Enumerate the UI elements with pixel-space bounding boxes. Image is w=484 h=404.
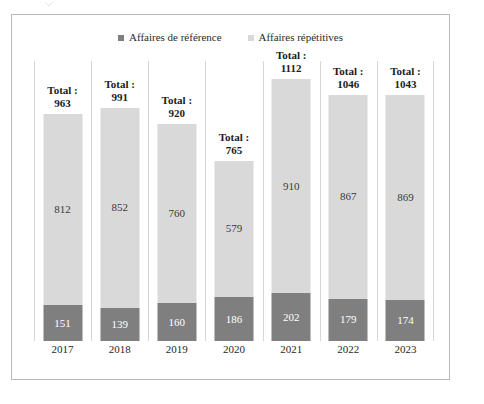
bar-total-label: Total :920 bbox=[162, 94, 192, 120]
stacked-bar[interactable]: 812151 bbox=[43, 114, 82, 341]
bar-segment-value: 760 bbox=[169, 208, 186, 219]
square-marker bbox=[248, 35, 254, 41]
bar-segment-value: 202 bbox=[283, 312, 300, 323]
bar-total-label: Total :991 bbox=[104, 78, 134, 104]
bar-total-prefix: Total : bbox=[276, 49, 306, 62]
bar-total-label: Total :1046 bbox=[333, 65, 363, 91]
x-tick-label: 2020 bbox=[223, 343, 245, 355]
stacked-bar[interactable]: 579186 bbox=[214, 161, 253, 341]
legend-item: Affaires répétitives bbox=[248, 32, 343, 43]
bar-total-prefix: Total : bbox=[162, 94, 192, 107]
bar-total-value: 1043 bbox=[390, 78, 420, 91]
column-separator bbox=[91, 61, 92, 341]
stacked-bar[interactable]: 869174 bbox=[386, 95, 425, 341]
bar-segment-reference[interactable]: 160 bbox=[157, 303, 196, 341]
bar-segment-reference[interactable]: 139 bbox=[100, 308, 139, 341]
category-column: 869174Total :1043 bbox=[377, 61, 434, 341]
bar-total-prefix: Total : bbox=[104, 78, 134, 91]
x-tick-label: 2017 bbox=[52, 343, 74, 355]
column-separator bbox=[205, 61, 206, 341]
bar-total-value: 1112 bbox=[276, 62, 306, 75]
bar-segment-repetitive[interactable]: 910 bbox=[272, 79, 311, 293]
bar-total-value: 991 bbox=[104, 91, 134, 104]
x-tick-label: 2019 bbox=[166, 343, 188, 355]
bar-segment-value: 186 bbox=[226, 314, 243, 325]
bar-segment-reference[interactable]: 151 bbox=[43, 305, 82, 341]
legend-item: Affaires de référence bbox=[118, 32, 222, 43]
bar-total-value: 963 bbox=[47, 97, 77, 110]
square-marker bbox=[118, 35, 124, 41]
bar-total-prefix: Total : bbox=[219, 131, 249, 144]
bar-total-label: Total :765 bbox=[219, 131, 249, 157]
column-separator bbox=[320, 61, 321, 341]
category-column: 760160Total :920 bbox=[148, 61, 205, 341]
column-separator bbox=[377, 61, 378, 341]
x-tick-label: 2021 bbox=[280, 343, 302, 355]
chart-frame: Affaires de référenceAffaires répétitive… bbox=[11, 14, 450, 380]
bar-total-value: 920 bbox=[162, 107, 192, 120]
bar-total-prefix: Total : bbox=[47, 84, 77, 97]
bar-segment-value: 160 bbox=[169, 317, 186, 328]
bar-total-prefix: Total : bbox=[333, 65, 363, 78]
bar-total-label: Total :1112 bbox=[276, 49, 306, 75]
bar-total-value: 1046 bbox=[333, 78, 363, 91]
bar-segment-repetitive[interactable]: 867 bbox=[329, 95, 368, 299]
bar-segment-reference[interactable]: 179 bbox=[329, 299, 368, 341]
stacked-bar[interactable]: 852139 bbox=[100, 108, 139, 341]
bar-segment-value: 179 bbox=[340, 314, 357, 325]
category-column: 910202Total :1112 bbox=[263, 61, 320, 341]
column-separator bbox=[263, 61, 264, 341]
legend-item-label: Affaires répétitives bbox=[259, 32, 343, 43]
column-separator bbox=[433, 61, 434, 341]
bar-segment-reference[interactable]: 174 bbox=[386, 300, 425, 341]
bar-total-prefix: Total : bbox=[390, 65, 420, 78]
x-axis-labels: 2017201820192020202120222023 bbox=[34, 343, 434, 363]
category-column: 852139Total :991 bbox=[91, 61, 148, 341]
bar-segment-value: 852 bbox=[111, 202, 128, 213]
bar-total-label: Total :1043 bbox=[390, 65, 420, 91]
bar-segment-repetitive[interactable]: 760 bbox=[157, 124, 196, 303]
column-separator bbox=[148, 61, 149, 341]
x-tick-label: 2018 bbox=[109, 343, 131, 355]
stacked-bar[interactable]: 910202 bbox=[272, 79, 311, 341]
bar-segment-value: 910 bbox=[283, 181, 300, 192]
chart-legend: Affaires de référenceAffaires répétitive… bbox=[12, 32, 449, 43]
bar-segment-value: 812 bbox=[54, 204, 71, 215]
category-column: 867179Total :1046 bbox=[320, 61, 377, 341]
column-separator bbox=[34, 61, 35, 341]
stacked-bar[interactable]: 867179 bbox=[329, 95, 368, 341]
bar-segment-value: 174 bbox=[397, 315, 414, 326]
legend-item-label: Affaires de référence bbox=[129, 32, 222, 43]
bar-segment-reference[interactable]: 202 bbox=[272, 293, 311, 341]
bar-segment-value: 139 bbox=[111, 319, 128, 330]
bar-segment-value: 869 bbox=[397, 192, 414, 203]
plot-area: 812151Total :963852139Total :991760160To… bbox=[34, 61, 434, 341]
bar-segment-repetitive[interactable]: 869 bbox=[386, 95, 425, 300]
bar-segment-repetitive[interactable]: 852 bbox=[100, 108, 139, 309]
category-column: 812151Total :963 bbox=[34, 61, 91, 341]
bar-segment-value: 151 bbox=[54, 318, 71, 329]
bar-segment-value: 579 bbox=[226, 223, 243, 234]
x-tick-label: 2022 bbox=[337, 343, 359, 355]
x-tick-label: 2023 bbox=[394, 343, 416, 355]
bar-total-label: Total :963 bbox=[47, 84, 77, 110]
bar-segment-value: 867 bbox=[340, 191, 357, 202]
scan-artifact bbox=[44, 1, 54, 8]
category-column: 579186Total :765 bbox=[205, 61, 262, 341]
bar-segment-reference[interactable]: 186 bbox=[214, 297, 253, 341]
stacked-bar[interactable]: 760160 bbox=[157, 124, 196, 341]
bar-segment-repetitive[interactable]: 579 bbox=[214, 161, 253, 297]
bar-segment-repetitive[interactable]: 812 bbox=[43, 114, 82, 305]
bar-total-value: 765 bbox=[219, 144, 249, 157]
